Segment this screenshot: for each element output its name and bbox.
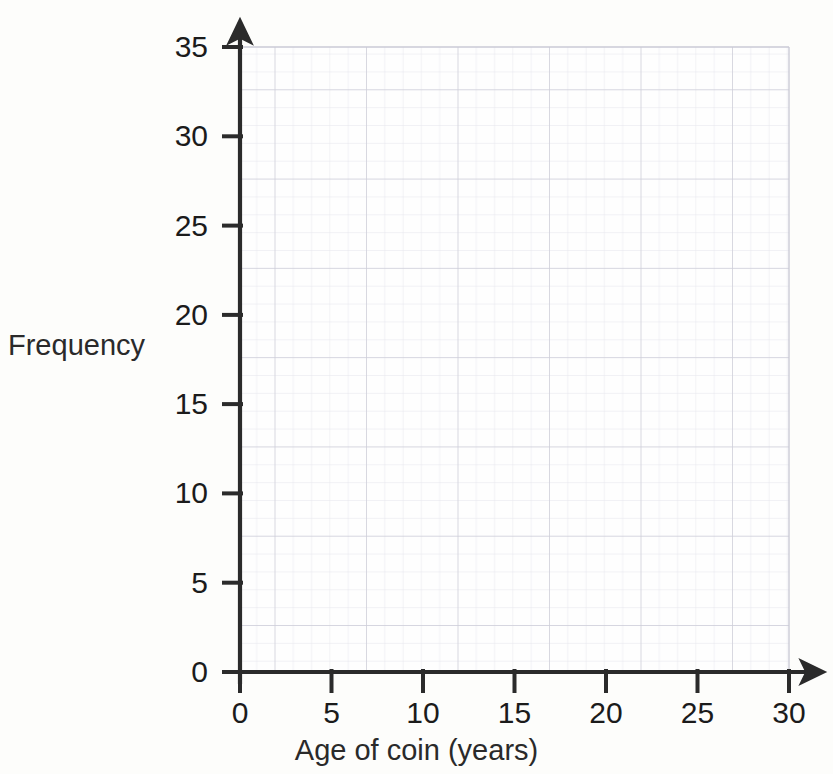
grid-lines: [240, 47, 789, 672]
x-tick-label-10: 10: [406, 698, 439, 728]
x-tick-label-15: 15: [498, 698, 531, 728]
graph-canvas: [0, 0, 833, 774]
y-tick-label-10: 10: [160, 478, 208, 508]
y-tick-label-5: 5: [160, 568, 208, 598]
y-axis-title: Frequency: [8, 331, 145, 360]
x-tick-label-5: 5: [323, 698, 340, 728]
graph-figure: 0 5 10 15 20 25 30 35 0 5 10 15 20 25 30…: [0, 0, 833, 774]
x-tick-label-20: 20: [589, 698, 622, 728]
x-tick-label-30: 30: [772, 698, 805, 728]
x-axis-title: Age of coin (years): [295, 736, 538, 765]
y-tick-label-30: 30: [160, 121, 208, 151]
y-tick-label-20: 20: [160, 300, 208, 330]
x-tick-label-25: 25: [681, 698, 714, 728]
y-tick-label-25: 25: [160, 211, 208, 241]
y-tick-label-15: 15: [160, 389, 208, 419]
y-tick-label-0: 0: [160, 657, 208, 687]
x-tick-label-0: 0: [232, 698, 249, 728]
y-tick-label-35: 35: [160, 32, 208, 62]
